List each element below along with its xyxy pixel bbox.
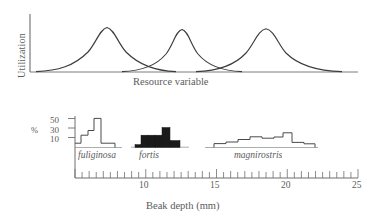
magnirostris-steps bbox=[214, 133, 315, 148]
fortis-bar-1 bbox=[135, 145, 141, 148]
fortis-bar-2 bbox=[141, 135, 148, 147]
species-label-fortis: fortis bbox=[139, 150, 159, 160]
figure-container: Utilization Resource variable % 50 30 10 bbox=[0, 0, 378, 222]
xtick-label-15: 15 bbox=[210, 180, 220, 190]
fuliginosa-steps bbox=[75, 118, 115, 147]
fortis-bar-5 bbox=[162, 128, 170, 148]
fortis-bar-3 bbox=[148, 135, 155, 147]
xtick-label-10: 10 bbox=[139, 180, 149, 190]
bottom-panel-plot bbox=[0, 0, 378, 222]
fortis-bar-6 bbox=[170, 141, 180, 148]
species-label-magnirostris: magnirostris bbox=[234, 150, 282, 160]
xtick-label-20: 20 bbox=[281, 180, 291, 190]
bottom-panel-xlabel: Beak depth (mm) bbox=[146, 200, 219, 211]
fortis-bar-4 bbox=[155, 135, 162, 147]
species-label-fuliginosa: fuliginosa bbox=[78, 150, 116, 160]
xtick-label-25: 25 bbox=[352, 180, 362, 190]
xaxis-tick-group bbox=[75, 169, 358, 178]
